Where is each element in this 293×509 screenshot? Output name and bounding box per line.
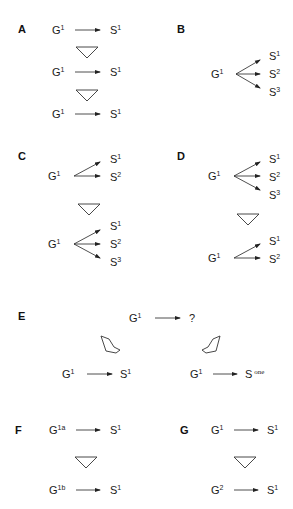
state-label: S2 — [269, 171, 280, 183]
state-label: S1 — [110, 66, 121, 78]
state-label: S1 — [120, 368, 131, 380]
panel-b: B G1 S1 S2 S3 — [177, 23, 280, 98]
state-label: S1 — [269, 153, 280, 165]
state-label: S2 — [269, 253, 280, 265]
panel-g: G G1 S1 G2 S1 — [180, 424, 278, 496]
arrow-right-icon — [236, 60, 260, 74]
gene-label: G1 — [48, 238, 61, 250]
panel-e: E G1 ? G1 S1 G1 Sone — [18, 310, 264, 380]
state-label: S3 — [269, 189, 280, 201]
state-label: S3 — [269, 86, 280, 98]
state-label: S2 — [110, 238, 121, 250]
state-label: S1 — [110, 153, 121, 165]
hollow-arrow-down-icon — [237, 214, 259, 225]
state-label: S1 — [110, 220, 121, 232]
gene-label: G1 — [211, 68, 224, 80]
hollow-arrow-down-icon — [76, 47, 98, 58]
state-label: S2 — [269, 68, 280, 80]
state-label: S2 — [110, 171, 121, 183]
state-label: S1 — [110, 484, 121, 496]
figure-canvas: A G1 S1 G1 S1 G1 S1 B G1 S1 S2 S3 C G1 S… — [0, 0, 293, 509]
state-label: S1 — [267, 424, 278, 436]
gene-label: G1 — [52, 66, 65, 78]
hollow-arrow-up-left-icon — [202, 336, 220, 353]
arrow-right-icon — [74, 230, 100, 244]
state-label: S1 — [110, 424, 121, 436]
hollow-arrow-up-right-icon — [101, 336, 120, 353]
gene-label: G1 — [190, 368, 203, 380]
panel-d: D G1 S1 S2 S3 G1 S1 S2 — [177, 150, 280, 265]
arrow-right-icon — [236, 74, 260, 88]
gene-label: G1 — [52, 24, 65, 36]
gene-label: G1a — [49, 424, 65, 436]
panel-f: F G1a S1 G1b S1 — [15, 424, 121, 496]
gene-label: G1 — [62, 368, 75, 380]
state-label: S1 — [269, 50, 280, 62]
state-label: S1 — [267, 484, 278, 496]
state-label: S3 — [110, 256, 121, 268]
gene-label: G1 — [129, 312, 142, 324]
hollow-arrow-down-icon — [234, 457, 256, 468]
state-label: S1 — [269, 235, 280, 247]
gene-label: G1 — [48, 170, 61, 182]
arrow-right-icon — [74, 162, 100, 176]
gene-label: G2 — [211, 484, 224, 496]
state-label: Sone — [245, 368, 264, 380]
hollow-arrow-down-icon — [75, 457, 97, 468]
panel-label-e: E — [18, 310, 25, 322]
arrow-right-icon — [74, 244, 100, 258]
state-label: ? — [189, 312, 195, 324]
panel-label-g: G — [180, 424, 189, 436]
panel-c: C G1 S1 S2 G1 S1 S2 S3 — [18, 150, 121, 268]
hollow-arrow-down-icon — [76, 90, 98, 101]
panel-label-a: A — [18, 23, 26, 35]
gene-label: G1 — [208, 170, 221, 182]
gene-label: G1 — [52, 108, 65, 120]
panel-label-c: C — [18, 150, 26, 162]
panel-label-f: F — [15, 424, 22, 436]
arrow-right-icon — [234, 244, 260, 258]
state-label: S1 — [110, 24, 121, 36]
gene-label: G1 — [208, 252, 221, 264]
panel-a: A G1 S1 G1 S1 G1 S1 — [18, 23, 121, 120]
panel-label-b: B — [177, 23, 185, 35]
panel-label-d: D — [177, 150, 185, 162]
hollow-arrow-down-icon — [78, 204, 100, 215]
arrow-right-icon — [234, 176, 260, 190]
gene-label: G1b — [49, 484, 65, 496]
state-label: S1 — [110, 108, 121, 120]
arrow-right-icon — [234, 162, 260, 176]
gene-label: G1 — [211, 424, 224, 436]
